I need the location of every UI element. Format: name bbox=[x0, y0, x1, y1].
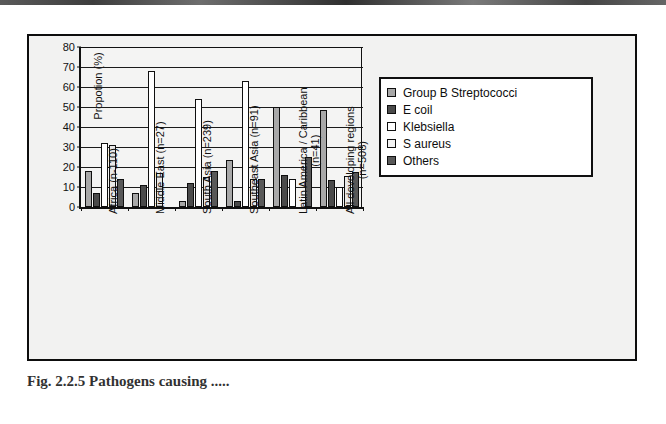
legend-item: E coil bbox=[387, 101, 585, 118]
legend-swatch-icon bbox=[387, 105, 396, 114]
x-axis-label: Africa (n-110) bbox=[107, 148, 119, 214]
y-tick-label: 80 bbox=[63, 41, 75, 53]
x-axis-label-line: (n=41) bbox=[309, 87, 321, 214]
legend-label: Others bbox=[403, 154, 439, 168]
y-tick-label: 10 bbox=[63, 181, 75, 193]
bar bbox=[281, 175, 288, 207]
bar bbox=[289, 179, 296, 207]
x-axis-label-line: All devoloping regions bbox=[344, 106, 356, 214]
x-axis-label-line: Middle East (n=27) bbox=[154, 121, 166, 214]
bar bbox=[93, 193, 100, 207]
y-tick-label: 0 bbox=[69, 201, 75, 213]
x-axis-label: Latin America / Caribbean(n=41) bbox=[297, 87, 321, 214]
bar bbox=[187, 183, 194, 207]
y-tick-label: 40 bbox=[63, 121, 75, 133]
plot-frame-top bbox=[79, 47, 362, 48]
legend-label: Group B Streptococci bbox=[403, 86, 517, 100]
x-axis-label-line: Southeast Asia (n=91) bbox=[248, 105, 260, 214]
bar bbox=[132, 193, 139, 207]
bar-group bbox=[222, 47, 269, 207]
x-axis-label-line: (n=508) bbox=[356, 106, 368, 214]
y-tick-label: 60 bbox=[63, 81, 75, 93]
bar bbox=[320, 110, 327, 207]
legend-item: Klebsiella bbox=[387, 118, 585, 135]
x-axis-label-line: South Asia (n=239) bbox=[201, 120, 213, 214]
legend-swatch-icon bbox=[387, 122, 396, 131]
x-axis-label-line: Latin America / Caribbean bbox=[297, 87, 309, 214]
bar bbox=[226, 160, 233, 207]
scan-artifact-bar bbox=[0, 0, 666, 5]
x-tick-mark bbox=[128, 207, 129, 211]
legend-swatch-icon bbox=[387, 156, 396, 165]
x-axis-label: All devoloping regions(n=508) bbox=[344, 106, 368, 214]
bar bbox=[273, 107, 280, 207]
bar bbox=[234, 201, 241, 207]
x-tick-mark bbox=[222, 207, 223, 211]
bar-group bbox=[175, 47, 222, 207]
legend-label: E coil bbox=[403, 103, 432, 117]
bar-group bbox=[128, 47, 175, 207]
chart-legend: Group B StreptococciE coilKlebsiellaS au… bbox=[379, 77, 593, 177]
legend-swatch-icon bbox=[387, 139, 396, 148]
legend-item: S aureus bbox=[387, 135, 585, 152]
figure-caption: Fig. 2.2.5 Pathogens causing ..... bbox=[27, 372, 647, 394]
x-axis-label-line: Africa (n-110) bbox=[107, 148, 119, 214]
bar bbox=[85, 171, 92, 207]
legend-label: Klebsiella bbox=[403, 120, 454, 134]
bar bbox=[328, 180, 335, 207]
x-axis-label: South Asia (n=239) bbox=[201, 120, 213, 214]
y-tick-label: 70 bbox=[63, 61, 75, 73]
legend-label: S aureus bbox=[403, 137, 451, 151]
x-tick-mark bbox=[175, 207, 176, 211]
legend-swatch-icon bbox=[387, 88, 396, 97]
x-axis-label: Middle East (n=27) bbox=[154, 121, 166, 214]
legend-item: Group B Streptococci bbox=[387, 84, 585, 101]
y-tick-label: 30 bbox=[63, 141, 75, 153]
legend-item: Others bbox=[387, 152, 585, 169]
x-tick-mark bbox=[269, 207, 270, 211]
bar bbox=[336, 187, 343, 207]
y-tick-label: 50 bbox=[63, 101, 75, 113]
bar bbox=[140, 185, 147, 207]
bar-group bbox=[81, 47, 128, 207]
x-tick-mark bbox=[81, 207, 82, 211]
y-tick-label: 20 bbox=[63, 161, 75, 173]
x-axis-label: Southeast Asia (n=91) bbox=[248, 105, 260, 214]
bar bbox=[179, 201, 186, 207]
